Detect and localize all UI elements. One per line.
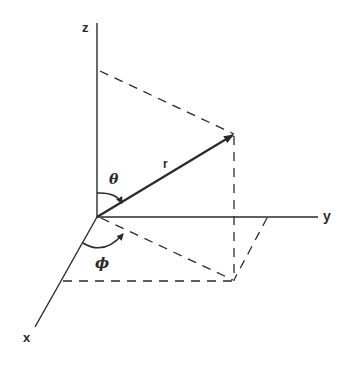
- spherical-coordinates-diagram: z y x r θ ϕ: [0, 0, 358, 367]
- xy-projection-dash: [101, 218, 233, 280]
- theta-label: θ: [109, 171, 119, 187]
- x-axis-label: x: [23, 330, 31, 345]
- x-axis: [35, 217, 97, 327]
- r-label: r: [163, 157, 168, 171]
- z-projection-dash: [100, 71, 234, 134]
- phi-arc: [83, 234, 123, 248]
- phi-label: ϕ: [95, 254, 109, 272]
- y-axis-label: y: [323, 208, 331, 224]
- y-parallel-dash: [234, 218, 267, 280]
- theta-arc: [97, 193, 122, 203]
- z-axis-label: z: [82, 20, 89, 35]
